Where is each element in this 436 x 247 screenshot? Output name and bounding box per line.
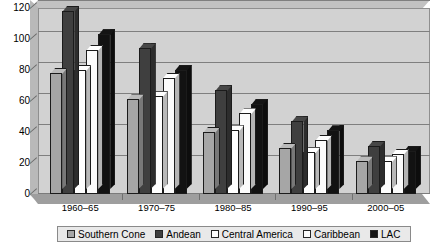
legend-swatch-icon [211,230,219,238]
bar-front-face [356,161,368,194]
x-tick-mark [122,194,123,200]
legend-item-label: Southern Cone [78,229,145,240]
legend-item-label: Central America [222,229,293,240]
bar-side-face [416,146,421,189]
x-axis-labels: 1960–651970–751980–851990–952000–05 [0,198,436,216]
bar-side-face [239,125,244,189]
bar-side-face [110,29,115,189]
bar-side-face [98,45,103,189]
bar [356,161,368,194]
x-axis-tick-label: 1970–75 [117,202,197,214]
legend-item[interactable]: Central America [211,229,293,240]
chart-container: 020406080100120 1960–651970–751980–85199… [0,0,436,247]
bar-side-face [74,6,79,189]
bar-series-group [0,0,436,215]
legend-item[interactable]: LAC [370,229,400,240]
bar [127,99,139,194]
bar [50,73,62,194]
bar-side-face [303,116,308,189]
bar-side-face [215,127,220,189]
bar-side-face [315,147,320,189]
bar-side-face [175,73,180,189]
x-axis-tick-label: 1990–95 [269,202,349,214]
bar-side-face [251,108,256,189]
legend-item[interactable]: Caribbean [303,229,360,240]
legend-item-label: Andean [166,229,200,240]
bar-front-face [279,148,291,195]
bar-front-face [127,99,139,194]
bar-side-face [151,43,156,189]
legend-item[interactable]: Andean [155,229,200,240]
bar-side-face [187,65,192,189]
bar-side-face [163,91,168,189]
x-tick-mark [199,194,200,200]
legend-swatch-icon [370,230,378,238]
legend-item[interactable]: Southern Cone [67,229,145,240]
bar-front-face [50,73,62,194]
legend-swatch-icon [303,230,311,238]
bar-side-face [263,99,268,189]
bar-side-face [339,125,344,189]
x-tick-mark [352,194,353,200]
legend-item-label: Caribbean [314,229,360,240]
legend-swatch-icon [155,230,163,238]
bar-front-face [203,132,215,194]
bar-side-face [404,149,409,189]
chart-legend: Southern ConeAndeanCentral AmericaCaribb… [57,226,411,242]
x-axis-tick-label: 1980–85 [193,202,273,214]
bar-side-face [380,141,385,189]
x-axis-tick-label: 2000–05 [346,202,426,214]
bar-side-face [139,94,144,189]
legend-item-label: LAC [381,229,400,240]
bar [279,148,291,195]
bar [203,132,215,194]
plot-area: 020406080100120 1960–651970–751980–85199… [0,0,436,215]
legend-swatch-icon [67,230,75,238]
bar-side-face [62,68,67,189]
bar-side-face [327,135,332,189]
x-tick-mark [275,194,276,200]
bar-side-face [86,65,91,189]
x-axis-tick-label: 1960–65 [40,202,120,214]
bar-side-face [227,85,232,189]
bar-side-face [291,143,296,190]
